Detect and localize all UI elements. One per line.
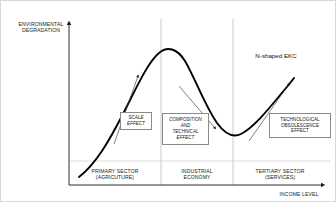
callout-techobs-line3: EFFECT <box>291 128 309 134</box>
sector-label-industrial: INDUSTRIAL ECONOMY <box>165 168 229 180</box>
y-axis-label-line2: DEGRADATION <box>15 27 67 33</box>
arrow-scale-effect <box>114 76 138 144</box>
callout-scale-effect-line2: EFFECT <box>127 121 145 127</box>
sector-label-primary: PRIMARY SECTOR (AGRICUTURE) <box>73 168 157 180</box>
y-axis-label: ENVIRONMENTAL DEGRADATION <box>15 21 67 33</box>
ekc-curve-label: N-shaped EKC <box>247 52 305 60</box>
sector-label-tertiary: TERTIARY SECTOR (SERVICES) <box>237 168 323 180</box>
sector-label-primary-line2: (AGRICUTURE) <box>73 174 157 180</box>
sector-label-industrial-line2: ECONOMY <box>165 174 229 180</box>
sector-label-tertiary-line2: (SERVICES) <box>237 174 323 180</box>
ekc-curve-label-text: N-shaped EKC <box>255 52 296 59</box>
ekc-diagram: ENVIRONMENTAL DEGRADATION INCOME LEVEL N… <box>0 0 336 202</box>
callout-technological-obsolescence-effect: TECHNOLOGICAL OBSOLESCENCE EFFECT <box>269 113 331 138</box>
x-axis-label-text: INCOME LEVEL <box>280 191 319 197</box>
callout-scale-effect: SCALE EFFECT <box>120 112 152 130</box>
x-axis-label: INCOME LEVEL <box>269 191 329 197</box>
callout-composition-technical-effect: COMPOSITION AND TECHNICAL EFFECT <box>162 113 209 145</box>
callout-composition-line4: EFFECT <box>177 135 195 141</box>
